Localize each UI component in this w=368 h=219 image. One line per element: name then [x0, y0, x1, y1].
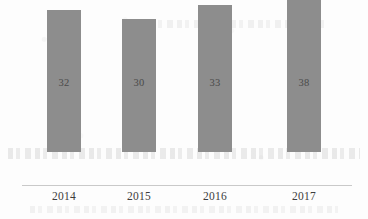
- bar-2016[interactable]: 33: [198, 5, 232, 152]
- bar-value-label-2015: 30: [122, 77, 156, 88]
- plot-area: 32 30 33 38: [0, 0, 368, 186]
- x-axis-label-2015: 2015: [113, 190, 165, 202]
- x-axis-label-2017: 2017: [278, 190, 330, 202]
- x-axis-label-2016: 2016: [189, 190, 241, 202]
- x-axis-line: [22, 185, 352, 186]
- bar-2015[interactable]: 30: [122, 19, 156, 152]
- bar-2017[interactable]: 38: [287, 0, 321, 152]
- bar-value-label-2014: 32: [47, 77, 81, 88]
- bar-chart: 32 30 33 38 2014 2015 2016 2017: [0, 0, 368, 219]
- x-axis-label-2014: 2014: [38, 190, 90, 202]
- bar-value-label-2016: 33: [198, 77, 232, 88]
- bar-2014[interactable]: 32: [47, 10, 81, 152]
- x-axis-tick-labels: 2014 2015 2016 2017: [0, 190, 368, 214]
- bar-value-label-2017: 38: [287, 77, 321, 88]
